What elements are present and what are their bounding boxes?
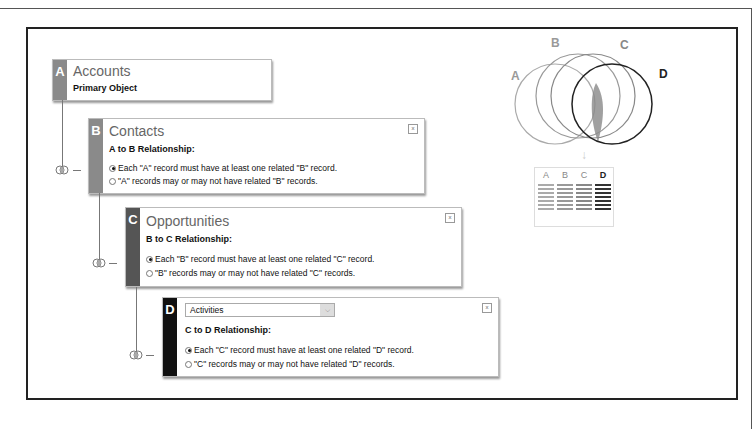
card-letter-d: D [163,298,177,376]
card-opportunities: C Opportunities x B to C Relationship: E… [125,207,462,287]
card-title: Contacts [109,123,164,139]
card-letter-b: B [89,119,103,193]
radio-selected[interactable] [146,256,153,263]
connector-line [99,193,100,263]
chevron-down-icon[interactable]: ⌵ [320,304,334,316]
join-icon [91,258,107,268]
radio-unselected[interactable] [146,270,153,277]
close-button[interactable]: x [445,213,455,223]
connector-line [146,355,154,356]
result-table: A B C D [534,167,614,227]
card-contacts: B Contacts x A to B Relationship: Each "… [88,118,425,194]
relationship-option-required[interactable]: Each "C" record must have at least one r… [185,345,414,355]
relationship-label: C to D Relationship: [185,325,271,335]
relationship-label: B to C Relationship: [146,234,232,244]
card-title: Opportunities [146,213,229,229]
connector-line [136,287,137,355]
relationship-option-required[interactable]: Each "B" record must have at least one r… [146,254,374,264]
join-icon [128,350,144,360]
connector-line [73,170,81,171]
relationship-option-required[interactable]: Each "A" record must have at least one r… [109,163,337,173]
venn-label-d: D [659,67,668,81]
radio-unselected[interactable] [185,361,192,368]
connector-line [62,100,63,170]
venn-label-c: C [620,38,629,52]
card-subtitle: Primary Object [73,83,137,93]
relationship-option-optional[interactable]: "C" records may or may not have related … [185,359,395,369]
connector-line [109,263,117,264]
venn-label-b: B [551,36,560,50]
close-button[interactable]: x [408,124,418,134]
relationship-option-optional[interactable]: "B" records may or may not have related … [146,268,355,278]
card-title: Accounts [73,63,131,79]
card-letter-c: C [126,208,140,286]
relationship-option-optional[interactable]: "A" records may or may not have related … [109,176,318,186]
relationship-label: A to B Relationship: [109,144,195,154]
venn-diagram [500,40,700,160]
card-letter-a: A [53,60,67,100]
card-accounts: A Accounts Primary Object [52,59,272,101]
close-button[interactable]: x [482,303,492,313]
radio-selected[interactable] [185,347,192,354]
radio-unselected[interactable] [109,178,116,185]
arrow-down-icon: ↓ [581,148,587,162]
card-activities: D Activities ⌵ x C to D Relationship: Ea… [162,297,499,377]
join-icon [54,165,70,175]
object-select[interactable]: Activities ⌵ [185,303,335,317]
venn-label-a: A [511,69,520,83]
radio-selected[interactable] [109,165,116,172]
